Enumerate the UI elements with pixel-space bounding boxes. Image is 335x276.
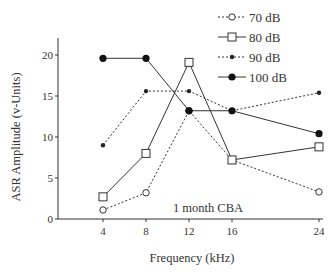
series-80db	[99, 58, 323, 200]
series-100db	[99, 55, 322, 138]
data-point-100db	[185, 107, 192, 114]
legend-item-100db: 100 dB	[218, 70, 287, 85]
legend-marker	[228, 73, 235, 80]
chart-annotation: 1 month CBA	[173, 201, 243, 215]
data-point-90db	[317, 91, 321, 95]
data-point-100db	[142, 55, 149, 62]
data-point-90db	[101, 143, 105, 147]
series-line-90db	[103, 91, 319, 145]
series-layer	[99, 55, 323, 214]
data-point-80db	[142, 149, 150, 157]
x-tick-label: 4	[100, 225, 106, 237]
x-axis-title: Frequency (kHz)	[149, 251, 234, 265]
data-point-80db	[228, 156, 236, 164]
legend-label: 70 dB	[249, 10, 281, 25]
y-axis-title: ASR Amplitude (v-Units)	[9, 72, 23, 201]
series-70db	[100, 108, 322, 214]
y-tick-label: 15	[42, 90, 54, 102]
data-point-100db	[228, 107, 235, 114]
data-point-70db	[143, 190, 149, 196]
y-ticks: 05101520	[42, 49, 58, 225]
legend-label: 100 dB	[249, 70, 287, 85]
data-point-90db	[144, 89, 148, 93]
x-tick-label: 12	[184, 225, 195, 237]
data-point-100db	[315, 130, 322, 137]
y-tick-label: 0	[48, 213, 54, 225]
legend-label: 90 dB	[249, 50, 281, 65]
asr-amplitude-chart: 05101520 48121624 ASR Amplitude (v-Units…	[0, 0, 335, 276]
y-tick-label: 5	[48, 172, 54, 184]
series-90db	[101, 89, 321, 148]
data-point-100db	[99, 55, 106, 62]
y-tick-label: 20	[42, 49, 54, 61]
data-point-80db	[185, 58, 193, 66]
data-point-70db	[100, 207, 106, 213]
x-tick-label: 24	[314, 225, 326, 237]
legend-item-80db: 80 dB	[218, 30, 281, 45]
data-point-70db	[316, 189, 322, 195]
legend-label: 80 dB	[249, 30, 281, 45]
data-point-80db	[99, 193, 107, 201]
legend-item-90db: 90 dB	[218, 50, 281, 65]
legend-marker	[229, 14, 235, 20]
legend-item-70db: 70 dB	[218, 10, 281, 25]
y-tick-label: 10	[42, 131, 54, 143]
legend: 70 dB80 dB90 dB100 dB	[218, 10, 287, 85]
legend-marker	[228, 33, 236, 41]
legend-marker	[230, 55, 234, 59]
x-tick-label: 16	[227, 225, 239, 237]
data-point-90db	[187, 89, 191, 93]
x-tick-label: 8	[143, 225, 149, 237]
x-ticks: 48121624	[100, 219, 325, 237]
data-point-80db	[315, 143, 323, 151]
